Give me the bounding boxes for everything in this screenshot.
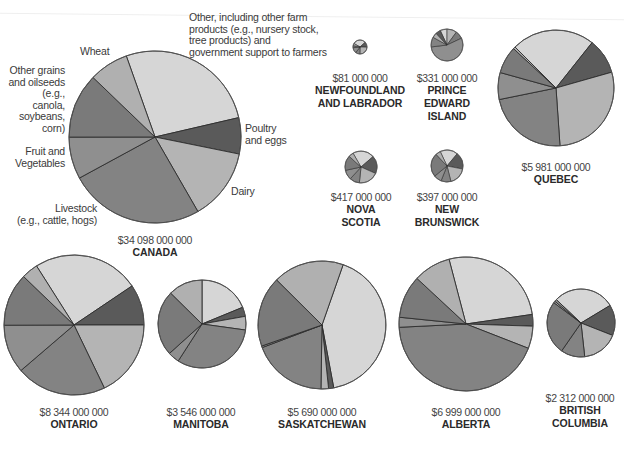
total-value: $2 312 000 000 (505, 392, 624, 404)
total-value: $34 098 000 000 (80, 234, 230, 246)
label-line: corn) (8, 123, 65, 135)
label-line: (e.g., cattle, hogs) (0, 215, 97, 227)
caption-pei: $331 000 000 PRINCE EDWARD ISLAND (372, 72, 522, 123)
pie-manitoba (158, 280, 246, 368)
region-name: ISLAND (372, 110, 522, 123)
label-line: (e.g., canola, (8, 88, 65, 111)
label-livestock: Livestock (e.g., cattle, hogs) (0, 203, 97, 226)
region-name: COLUMBIA (505, 417, 624, 430)
region-name: BRITISH (505, 404, 624, 417)
pie-prince-edward-island (431, 29, 463, 61)
label-other: Other, including other farm products (e.… (189, 12, 327, 58)
label-line: tree products) and (189, 35, 327, 47)
total-value: $331 000 000 (372, 72, 522, 84)
caption-canada: $34 098 000 000 CANADA (80, 234, 230, 259)
total-value: $5 690 000 000 (247, 406, 397, 418)
label-line: government support to farmers (189, 47, 327, 59)
region-name: CANADA (80, 246, 230, 259)
label-fruit-vegetables: Fruit and Vegetables (0, 146, 65, 169)
pie-alberta (399, 257, 533, 391)
caption-new-brunswick: $397 000 000 NEW BRUNSWICK (372, 191, 522, 229)
label-line: and eggs (245, 135, 287, 147)
caption-quebec: $5 981 000 000 QUEBEC (481, 161, 624, 186)
pie-british-columbia (547, 289, 615, 357)
pie-canada (69, 51, 241, 223)
region-name: EDWARD (372, 97, 522, 110)
caption-british-columbia: $2 312 000 000 BRITISH COLUMBIA (505, 392, 624, 430)
caption-saskatchewan: $5 690 000 000 SASKATCHEWAN (247, 406, 397, 431)
region-name: BRUNSWICK (372, 216, 522, 229)
region-name: NEW (372, 203, 522, 216)
label-line: soybeans, (8, 111, 65, 123)
total-value: $397 000 000 (372, 191, 522, 203)
pie-ontario (4, 255, 144, 395)
region-name: QUEBEC (481, 173, 624, 186)
label-wheat: Wheat (80, 46, 109, 58)
label-other-grains: Other grains and oilseeds (e.g., canola,… (8, 65, 65, 134)
label-line: Other grains (8, 65, 65, 77)
label-poultry-eggs: Poultry and eggs (245, 123, 287, 146)
pie-new-brunswick (431, 150, 463, 182)
total-value: $5 981 000 000 (481, 161, 624, 173)
label-line: Livestock (0, 203, 97, 215)
pie-saskatchewan (258, 261, 386, 389)
label-line: Fruit and (0, 146, 65, 158)
label-line: Vegetables (0, 158, 65, 170)
label-dairy: Dairy (231, 186, 255, 198)
pie-nova-scotia (345, 151, 377, 183)
region-name: PRINCE (372, 84, 522, 97)
region-name: SASKATCHEWAN (247, 418, 397, 431)
label-line: Other, including other farm (189, 12, 327, 24)
pie-newfoundland-and-labrador (353, 40, 367, 54)
label-line: Poultry (245, 123, 287, 135)
